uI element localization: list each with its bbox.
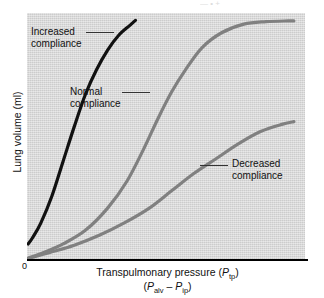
x-axis-paren-close: ) [188,280,192,292]
x-axis-line [27,259,308,261]
x-axis-title-line1: Transpulmonary pressure (Ptp) [27,265,308,279]
leader-line-decreased [200,165,228,166]
annotation-decreased-line2: compliance [232,170,283,182]
x-axis-symbol-palv-sub: alv [154,286,164,295]
annotation-normal-line2: compliance [70,98,121,110]
x-axis-title-suffix: ) [235,266,239,278]
annotation-normal-line1: Normal [70,86,121,98]
y-axis-title: Lung volume (ml) [11,62,23,202]
annotation-normal-compliance: Normal compliance [70,86,121,110]
leader-line-normal [122,92,150,93]
annotation-increased-compliance: Increased compliance [31,26,82,50]
x-axis-symbol-palv: P [147,280,154,292]
annotation-increased-line2: compliance [31,38,82,50]
curve-increased-compliance [28,20,135,244]
plot-area [27,13,305,260]
x-axis-title-line2: (Palv – Pip) [27,279,308,293]
x-axis-title: Transpulmonary pressure (Ptp) (Palv – Pi… [27,265,308,293]
leader-line-increased [86,32,114,33]
annotation-decreased-line1: Decreased [232,158,283,170]
curves-svg [27,13,305,260]
curve-normal-compliance [28,21,293,258]
top-crop-fragment: — • + [200,0,324,6]
x-axis-symbol-ptp: P [222,266,229,278]
x-axis-title-prefix: Transpulmonary pressure ( [96,266,222,278]
annotation-decreased-compliance: Decreased compliance [232,158,283,182]
x-axis-minus: – [164,280,176,292]
lung-compliance-figure: — • + 0 Lung volume (ml) Transpulmonary … [0,0,324,298]
annotation-increased-line1: Increased [31,26,82,38]
